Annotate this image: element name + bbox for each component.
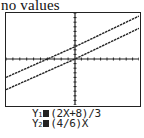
graph-plot xyxy=(6,13,139,105)
graph-screen xyxy=(5,12,141,107)
equation-subscript: 2 xyxy=(38,121,42,131)
equation-expression: (4/6)X xyxy=(50,119,88,129)
selected-equals-icon xyxy=(43,120,49,127)
equation-list: Y1(2X+8)/3 Y2(4/6)X xyxy=(32,109,101,128)
selected-equals-icon xyxy=(43,110,49,117)
equation-subscript: 1 xyxy=(38,111,42,121)
plot-line-y1 xyxy=(6,16,139,77)
